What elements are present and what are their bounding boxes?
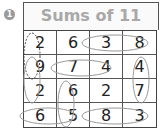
exercise-number-badge: 1 [4,9,15,20]
grid-cell[interactable]: 3 [123,103,156,127]
grid-cell[interactable]: 2 [90,79,123,103]
grid-cell[interactable]: 6 [57,31,90,55]
grid-cell[interactable]: 4 [90,55,123,79]
grid-cell[interactable]: 2 [24,31,57,55]
grid-cell[interactable]: 7 [57,55,90,79]
title-box: Sums of 11 [23,2,159,30]
grid-cell[interactable]: 8 [123,31,156,55]
grid-cell[interactable]: 4 [123,55,156,79]
grid-cell[interactable]: 9 [24,55,57,79]
grid-cell[interactable]: 6 [24,103,57,127]
grid-cell[interactable]: 3 [90,31,123,55]
grid-cell[interactable]: 2 [24,79,57,103]
grid-cell[interactable]: 8 [90,103,123,127]
grid-cell[interactable]: 5 [57,103,90,127]
grid-cell[interactable]: 7 [123,79,156,103]
grid-cell[interactable]: 6 [57,79,90,103]
exercise-title: Sums of 11 [24,6,158,25]
number-grid: 2 6 3 8 9 7 4 4 2 6 2 7 6 5 8 3 [23,30,157,128]
